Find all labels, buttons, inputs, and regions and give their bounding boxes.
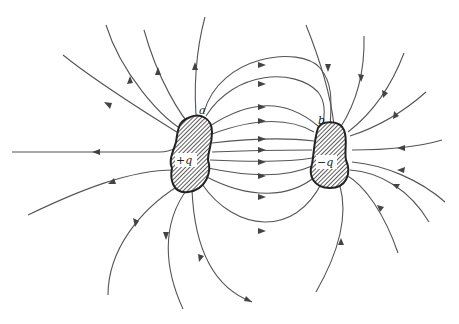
field-line-diagram: +q a −q b <box>0 0 459 324</box>
charge-label-b: −q <box>317 156 333 169</box>
charge-label-a: +q <box>176 154 192 167</box>
connecting-arrows <box>258 62 266 234</box>
conductor-a: +q a <box>171 104 212 192</box>
outgoing-field-lines-a <box>12 17 252 309</box>
point-label-b: b <box>318 114 325 127</box>
point-label-a: a <box>199 104 206 117</box>
connecting-field-lines <box>202 57 331 223</box>
